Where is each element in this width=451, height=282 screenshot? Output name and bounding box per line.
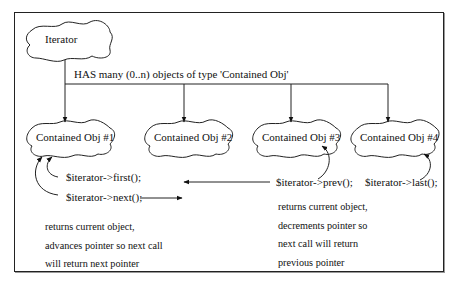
method-last: $iterator->last(); <box>365 176 438 189</box>
obj1-label: Contained Obj #1 <box>36 131 114 143</box>
prev-note: returns current object, decrements point… <box>278 198 368 272</box>
method-next: $iterator->next(); <box>66 191 142 204</box>
method-first: $iterator->first(); <box>66 171 141 184</box>
relation-label: HAS many (0..n) objects of type 'Contain… <box>74 68 288 81</box>
iterator-label: Iterator <box>45 33 77 46</box>
obj3-label: Contained Obj #3 <box>262 131 340 143</box>
obj4-label: Contained Obj #4 <box>360 131 438 143</box>
method-prev: $iterator->prev(); <box>276 176 353 189</box>
obj2-label: Contained Obj #2 <box>154 131 232 143</box>
next-note: returns current object, advances pointer… <box>45 218 163 274</box>
